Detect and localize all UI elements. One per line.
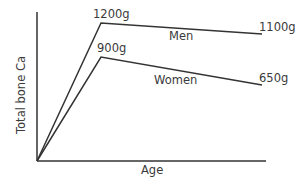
women-end-label: 650g (259, 73, 288, 85)
x-axis-label: Age (141, 165, 163, 177)
women-series-label: Women (154, 75, 197, 87)
men-series-label: Men (169, 31, 193, 43)
y-axis-label: Total bone Ca (14, 50, 28, 140)
men-line (37, 23, 262, 161)
men-peak-label: 1200g (93, 9, 130, 21)
men-end-label: 1100g (259, 22, 296, 34)
women-line (37, 57, 262, 161)
women-peak-label: 900g (97, 43, 126, 55)
